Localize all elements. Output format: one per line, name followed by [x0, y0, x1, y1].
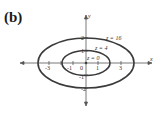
y-tick-label: 2: [81, 35, 84, 41]
x-axis-label: x: [149, 56, 153, 62]
x-tick-label: 0: [80, 65, 83, 71]
y-tick-label: -1: [79, 74, 84, 80]
y-axis-arrow-down-icon: [85, 102, 88, 106]
contour-label-z0: z = 0: [86, 55, 99, 61]
level-curves-diagram: y x -3 -1 0 1 3 2 1 -1 -2 z = 16 z = 4 z…: [0, 0, 161, 129]
contour-z0-point: [85, 62, 87, 64]
axes: [20, 15, 152, 106]
x-tick-label: -1: [67, 65, 72, 71]
y-axis-label: y: [87, 13, 91, 19]
x-tick-label: 3: [119, 65, 122, 71]
y-tick-label: 1: [81, 48, 84, 54]
contour-label-z16: z = 16: [105, 35, 121, 41]
x-tick-label: -3: [45, 65, 50, 71]
y-tick-label: -2: [81, 86, 86, 92]
x-axis-arrow-left-icon: [20, 62, 24, 65]
x-tick-label: 1: [96, 65, 99, 71]
contour-label-z4: z = 4: [94, 45, 107, 51]
